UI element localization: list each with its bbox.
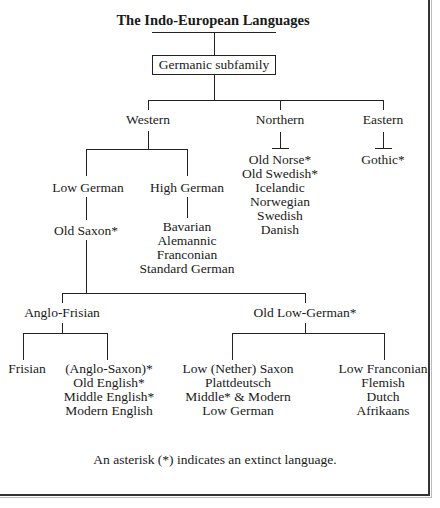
connector xyxy=(214,32,215,55)
language-bavarian: Bavarian xyxy=(140,220,235,234)
node-western: Western xyxy=(126,113,170,127)
language-middle-english: Middle English* xyxy=(64,390,154,404)
language-modern-english: Modern English xyxy=(64,404,154,418)
connector xyxy=(214,75,215,100)
connector xyxy=(62,293,306,294)
connector xyxy=(232,333,233,360)
language-frisian: Frisian xyxy=(8,362,46,376)
node-old-saxon: Old Saxon* xyxy=(54,224,118,238)
connector xyxy=(272,148,289,149)
language-gothic: Gothic* xyxy=(361,153,405,167)
connector xyxy=(23,333,24,360)
connector xyxy=(375,148,392,149)
connector xyxy=(384,333,385,360)
connector xyxy=(107,333,108,360)
language-dutch: Dutch xyxy=(339,390,428,404)
connector xyxy=(86,197,87,220)
connector xyxy=(383,132,384,149)
language-low-nether-saxon: Low (Nether) Saxon xyxy=(183,362,294,376)
language-icelandic: Icelandic xyxy=(242,181,318,195)
node-old-low-german: Old Low-German* xyxy=(253,306,356,320)
footnote: An asterisk (*) indicates an extinct lan… xyxy=(93,453,336,467)
node-northern: Northern xyxy=(256,113,305,127)
northern-languages-list: Old Norse* Old Swedish* Icelandic Norweg… xyxy=(242,153,318,237)
connector xyxy=(280,100,281,110)
connector xyxy=(305,323,306,333)
language-swedish: Swedish xyxy=(242,209,318,223)
connector xyxy=(187,149,188,176)
language-afrikaans: Afrikaans xyxy=(339,404,428,418)
language-standard-german: Standard German xyxy=(140,262,235,276)
connector xyxy=(62,323,63,333)
connector xyxy=(148,131,149,149)
node-low-german: Low German xyxy=(52,181,124,195)
language-plattdeutsch: Plattdeutsch xyxy=(183,376,294,390)
connector xyxy=(187,197,188,218)
connector xyxy=(62,293,63,303)
language-anglo-saxon: (Anglo-Saxon)* xyxy=(64,362,154,376)
connector xyxy=(148,100,384,101)
language-old-swedish: Old Swedish* xyxy=(242,167,318,181)
language-alemannic: Alemannic xyxy=(140,234,235,248)
language-low-german: Low German xyxy=(183,404,294,418)
diagram-title: The Indo-European Languages xyxy=(116,13,309,27)
connector xyxy=(86,149,87,176)
connector xyxy=(86,240,87,293)
low-saxon-languages-list: Low (Nether) Saxon Plattdeutsch Middle* … xyxy=(183,362,294,418)
high-german-languages-list: Bavarian Alemannic Franconian Standard G… xyxy=(140,220,235,276)
language-old-english: Old English* xyxy=(64,376,154,390)
node-high-german: High German xyxy=(150,181,224,195)
language-franconian: Franconian xyxy=(140,248,235,262)
connector xyxy=(305,293,306,303)
root-node-germanic-subfamily: Germanic subfamily xyxy=(152,55,276,75)
connector xyxy=(23,333,108,334)
language-middle-modern: Middle* & Modern xyxy=(183,390,294,404)
connector xyxy=(383,100,384,110)
language-danish: Danish xyxy=(242,223,318,237)
connector xyxy=(86,149,188,150)
node-eastern: Eastern xyxy=(363,113,403,127)
connector xyxy=(280,132,281,149)
english-languages-list: (Anglo-Saxon)* Old English* Middle Engli… xyxy=(64,362,154,418)
node-anglo-frisian: Anglo-Frisian xyxy=(24,306,100,320)
language-norwegian: Norwegian xyxy=(242,195,318,209)
connector xyxy=(232,333,385,334)
language-flemish: Flemish xyxy=(339,376,428,390)
language-low-franconian: Low Franconian xyxy=(339,362,428,376)
connector xyxy=(148,100,149,110)
language-old-norse: Old Norse* xyxy=(242,153,318,167)
low-franconian-languages-list: Low Franconian Flemish Dutch Afrikaans xyxy=(339,362,428,418)
